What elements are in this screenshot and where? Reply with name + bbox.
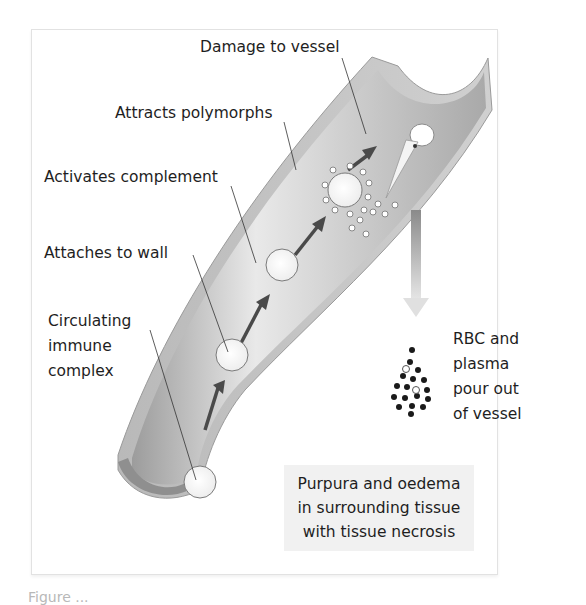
rbc-drop: [391, 347, 431, 417]
immune-complex-2: [216, 339, 248, 371]
outcome-line3: with tissue necrosis: [298, 520, 461, 544]
label-rbc-line3: pour out: [453, 380, 519, 399]
label-circulating-line2: immune: [48, 337, 112, 356]
outcome-line2: in surrounding tissue: [298, 496, 461, 520]
label-attaches-to-wall: Attaches to wall: [44, 244, 168, 263]
label-activates-complement: Activates complement: [44, 168, 218, 187]
label-rbc-line1: RBC and: [453, 330, 519, 349]
immune-complex-3: [266, 249, 298, 281]
outcome-box: Purpura and oedema in surrounding tissue…: [284, 465, 474, 551]
label-circulating-line1: Circulating: [48, 312, 131, 331]
immune-complex-1: [184, 466, 216, 498]
label-rbc-line4: of vessel: [453, 405, 522, 424]
label-attracts-polymorphs: Attracts polymorphs: [115, 104, 272, 123]
immune-complex-4: [328, 173, 362, 207]
label-damage-to-vessel: Damage to vessel: [200, 38, 340, 57]
outcome-line1: Purpura and oedema: [298, 472, 461, 496]
label-circulating-line3: complex: [48, 362, 114, 381]
leak-arrow-icon: [403, 298, 429, 317]
label-rbc-line2: plasma: [453, 355, 509, 374]
figure-caption: Figure ...: [28, 589, 89, 605]
